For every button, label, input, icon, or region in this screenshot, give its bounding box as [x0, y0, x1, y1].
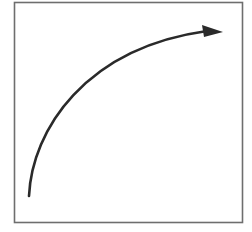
diagram-canvas — [0, 0, 252, 232]
